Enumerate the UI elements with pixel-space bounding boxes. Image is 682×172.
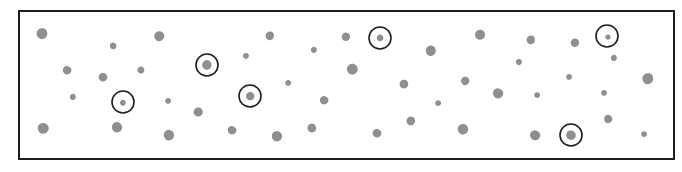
- dot: [110, 43, 117, 50]
- dot: [407, 117, 416, 126]
- dot: [342, 33, 350, 41]
- dot: [320, 96, 329, 104]
- dot: [461, 77, 469, 85]
- dot: [527, 35, 535, 44]
- dot: [605, 34, 610, 39]
- dot: [458, 124, 469, 135]
- dot: [154, 31, 164, 41]
- dot-field: [0, 0, 682, 172]
- dot: [516, 59, 522, 65]
- dot: [311, 47, 317, 53]
- dot: [534, 92, 540, 98]
- dot: [38, 123, 49, 134]
- dot: [120, 100, 126, 106]
- dot: [308, 124, 317, 133]
- dots-layer: [36, 28, 653, 141]
- dot: [228, 126, 237, 134]
- circle-markers-layer: [112, 25, 618, 146]
- dot: [530, 130, 540, 140]
- dot: [272, 131, 283, 141]
- dot: [137, 66, 144, 73]
- dot: [63, 66, 72, 74]
- dot: [601, 90, 607, 96]
- dot: [347, 64, 358, 75]
- dot: [194, 107, 203, 116]
- dot: [99, 73, 108, 82]
- dot: [243, 53, 249, 59]
- figure-canvas: [0, 0, 682, 172]
- dot: [400, 80, 409, 89]
- dot: [566, 74, 572, 80]
- dot: [377, 35, 384, 42]
- dot: [435, 100, 441, 106]
- dot: [266, 31, 274, 40]
- dot: [426, 46, 436, 56]
- dot: [611, 55, 617, 61]
- dot: [571, 39, 579, 47]
- dot: [642, 73, 653, 84]
- dot: [36, 28, 47, 39]
- dot: [246, 92, 254, 100]
- dot: [165, 98, 171, 104]
- dot: [70, 94, 76, 100]
- dot: [285, 80, 291, 86]
- dot: [641, 131, 647, 137]
- dot: [373, 129, 382, 138]
- dot: [164, 130, 175, 141]
- dot: [112, 122, 123, 132]
- dot: [475, 30, 485, 40]
- dot: [202, 60, 211, 70]
- dot: [493, 88, 503, 98]
- dot: [604, 115, 612, 123]
- dot: [566, 130, 576, 140]
